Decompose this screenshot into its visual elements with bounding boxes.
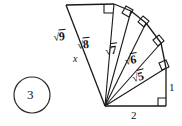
outer-edge-sqrt6 — [161, 43, 166, 68]
hypotenuse-label-sqrt6: √6 — [124, 52, 139, 68]
right-angle-marker-base — [158, 98, 166, 106]
right-angle-marker-sqrt9 — [104, 4, 113, 13]
geometry-diagram — [0, 0, 182, 126]
figure-canvas: 3 √9 √8 √7 √6 √5 x 1 2 — [0, 0, 182, 126]
base-side-label: 2 — [131, 110, 137, 121]
problem-number-label: 3 — [27, 88, 34, 101]
spoke-x-outer — [66, 5, 105, 106]
hypotenuse-label-sqrt8: √8 — [77, 37, 91, 52]
outer-edge-top — [66, 4, 114, 5]
vertical-side-label: 1 — [169, 82, 175, 93]
radicand-9: 9 — [58, 29, 66, 43]
hypotenuse-label-sqrt9: √9 — [53, 29, 67, 44]
hypotenuse-label-sqrt7: √7 — [104, 42, 118, 57]
unknown-side-label: x — [73, 54, 77, 64]
right-angle-marker-sqrt5 — [159, 60, 169, 70]
radicand-8: 8 — [82, 37, 90, 51]
